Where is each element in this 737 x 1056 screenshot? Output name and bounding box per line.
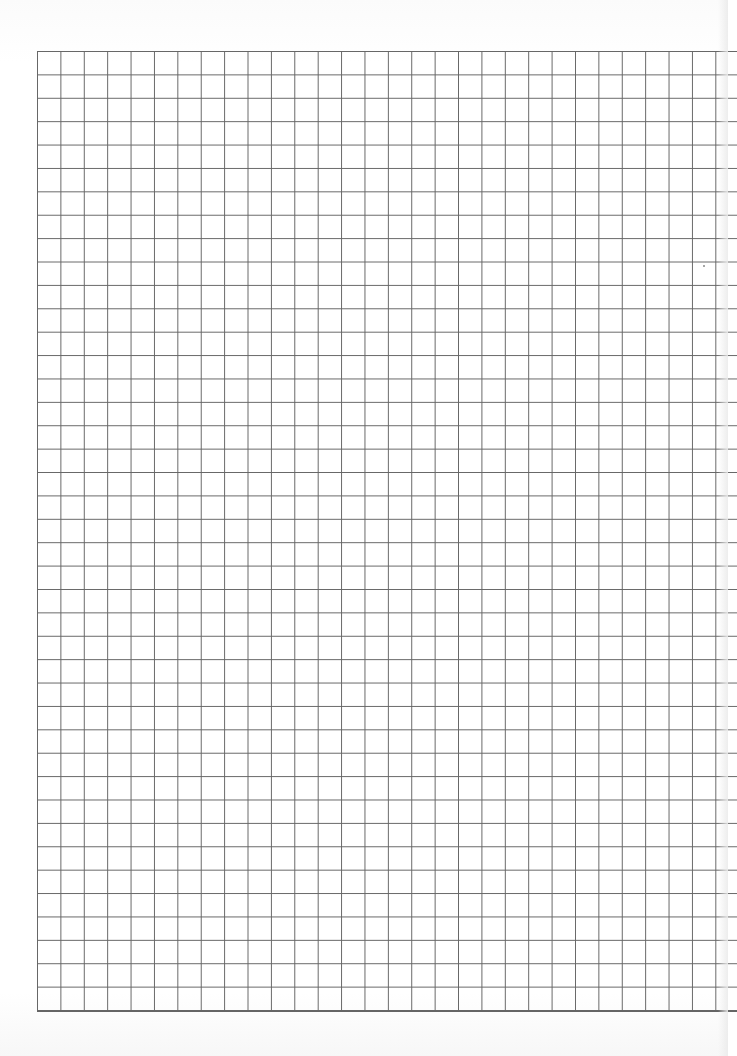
square-grid <box>37 51 737 1012</box>
stray-mark <box>703 265 705 267</box>
page-edge-shadow <box>718 0 728 1056</box>
